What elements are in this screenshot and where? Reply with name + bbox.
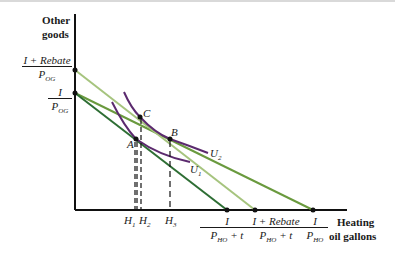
point-a — [134, 137, 139, 142]
point-a-label: A — [127, 138, 134, 150]
h1-label: H1 — [124, 214, 135, 231]
intercept-original-x — [311, 208, 316, 213]
point-b-label: B — [171, 126, 178, 138]
intercept-rebate-y — [73, 68, 78, 73]
intercept-taxed-x — [225, 208, 230, 213]
intercept-income-y — [73, 91, 78, 96]
intercept-rebate-x — [253, 208, 258, 213]
y-axis-label-line1: Other — [42, 14, 70, 26]
point-c — [138, 115, 143, 120]
indifference-curve-u1 — [112, 102, 190, 162]
h2-label: H2 — [139, 214, 150, 231]
x-axis-label-line2: oil gallons — [329, 230, 376, 242]
budget-line-rebate — [75, 70, 255, 210]
curve-u2-label: U2 — [210, 147, 221, 164]
point-c-label: C — [143, 107, 150, 119]
y-axis-label-line2: goods — [42, 28, 69, 40]
x-axis-label-line1: Heating — [337, 216, 374, 228]
x-intercept-rebate-label: I + Rebate PHO + t — [246, 215, 306, 246]
h3-label: H3 — [165, 214, 176, 231]
y-intercept-income-label: I POG — [48, 86, 72, 117]
y-intercept-rebate-label: I + Rebate POG — [22, 54, 72, 85]
curve-u1-label: U1 — [190, 163, 201, 180]
budget-line-original — [75, 93, 313, 210]
x-intercept-original-label: I PHO — [302, 215, 328, 246]
